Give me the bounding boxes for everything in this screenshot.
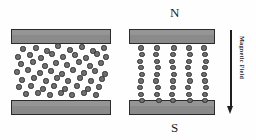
magnetic-field-arrow-shaft [230,30,232,108]
particle-random [76,59,81,64]
particle-random [81,90,86,95]
particle-random [102,71,107,76]
particle-chain [202,78,207,83]
particle-random [19,77,24,82]
particle-chain [185,85,190,90]
particle-random [25,67,30,72]
particle-random [53,60,58,65]
particle-random [14,69,19,74]
particle-random [47,92,52,97]
particle-chain [186,72,191,77]
particle-chain [170,65,175,70]
particle-chain [155,85,160,90]
particle-chain [203,85,208,90]
particle-chain [186,45,191,50]
particle-chain [171,45,176,50]
magnetic-field-arrow-head [227,106,233,114]
particle-random [74,83,79,88]
particle-random [67,47,72,52]
particle-chain [202,65,207,70]
particle-chain [202,92,207,97]
particle-chain [154,72,159,77]
particle-random [59,71,64,76]
particle-random [49,51,54,56]
particle-chain [202,52,207,57]
particle-random [62,86,67,91]
particle-chain [170,78,175,83]
particle-random [30,59,35,64]
particle-random [98,60,103,65]
particle-chain [187,78,192,83]
particle-random [90,48,95,53]
particle-chain [201,72,206,77]
particle-random [48,68,53,73]
particle-random [83,55,88,60]
particle-random [55,43,60,48]
particle-random [64,62,69,67]
particle-random [99,76,104,81]
particle-random [28,83,33,88]
particle-random [77,75,82,80]
particle-random [85,86,90,91]
particle-chain [138,92,143,97]
particle-random [31,75,36,80]
magnetic-field-label: Magnetic Field [239,36,246,104]
particle-random [35,90,40,95]
particle-chain [137,85,142,90]
particle-chain [137,59,142,64]
particle-chain [186,59,191,64]
particle-random [79,44,84,49]
particle-random [72,52,77,57]
particle-chain [169,59,174,64]
particle-chain [153,78,158,83]
particle-random [65,78,70,83]
particle-chain [170,52,175,57]
particle-random [27,52,32,57]
left-top-plate [11,29,111,44]
particle-random [20,46,25,51]
particle-chain [139,72,144,77]
particle-random [58,90,63,95]
figure-canvas: N S Magnetic Field [0,0,256,140]
particle-chain [186,92,191,97]
particle-chain [185,65,190,70]
particle-chain [154,92,159,97]
particle-chain [169,92,174,97]
particle-random [43,78,48,83]
particle-random [93,92,98,97]
particle-random [42,63,47,68]
particle-chain [154,45,159,50]
particle-random [51,83,56,88]
particle-chain [138,78,143,83]
particle-chain [201,45,206,50]
particle-random [33,45,38,50]
particle-chain [153,52,158,57]
particle-random [70,67,75,72]
particle-chain [203,59,208,64]
right-bottom-plate [129,100,215,115]
particle-chain [138,65,143,70]
particle-random [60,54,65,59]
particle-random [81,70,86,75]
particle-random [92,68,97,73]
particle-random [87,63,92,68]
north-pole-label: N [170,6,180,19]
particle-chain [170,85,175,90]
particle-chain [154,59,159,64]
particle-chain [155,65,160,70]
particle-chain [187,52,192,57]
particle-random [40,86,45,91]
particle-random [44,48,49,53]
particle-random [38,55,43,60]
particle-random [88,78,93,83]
particle-chain [138,45,143,50]
particle-chain [171,72,176,77]
particle-random [37,70,42,75]
particle-random [54,75,59,80]
particle-random [16,84,21,89]
south-pole-label: S [171,121,179,134]
particle-random [101,45,106,50]
particle-random [69,92,74,97]
particle-chain [139,52,144,57]
particle-random [18,61,23,66]
